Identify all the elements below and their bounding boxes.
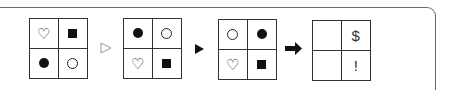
- panel-4-cell-top-right: $: [342, 21, 371, 51]
- circle-outline-icon: [161, 28, 172, 39]
- panel-1-cell-bottom-right: [59, 49, 88, 79]
- hollow-triangle-arrow-icon: [100, 42, 112, 54]
- panel-3-cell-bottom-left: ♡: [219, 50, 248, 80]
- square-filled-icon: [162, 59, 171, 68]
- panel-3-cell-top-left: [219, 20, 248, 50]
- panel-2-cell-top-left: [124, 19, 153, 49]
- circle-filled-icon: [257, 29, 267, 39]
- panel-3-cell-top-right: [248, 20, 277, 50]
- square-filled-icon: [68, 29, 77, 38]
- dollar-symbol: $: [352, 27, 360, 44]
- filled-triangle-arrow-icon: [194, 43, 205, 55]
- panel-1-cell-bottom-left: [30, 49, 59, 79]
- heart-outline-icon: ♡: [226, 57, 239, 72]
- panel-1-cell-top-left: ♡: [30, 19, 59, 49]
- circle-filled-icon: [39, 58, 49, 68]
- panel-3: ♡: [218, 19, 277, 80]
- panel-1: ♡: [29, 18, 88, 79]
- panel-4-cell-top-left: [313, 21, 342, 51]
- circle-outline-icon: [227, 29, 238, 40]
- exclamation-symbol: !: [354, 57, 358, 74]
- panel-2: ♡: [123, 18, 182, 79]
- panel-2-cell-bottom-left: ♡: [124, 49, 153, 79]
- heart-outline-icon: ♡: [131, 56, 144, 71]
- panel-2-cell-top-right: [153, 19, 182, 49]
- panel-4-answer: $ !: [312, 20, 371, 81]
- thick-right-arrow-icon: [285, 42, 303, 55]
- panel-1-cell-top-right: [59, 19, 88, 49]
- panel-4-cell-bottom-right: !: [342, 51, 371, 81]
- panel-4-cell-bottom-left: [313, 51, 342, 81]
- panel-3-cell-bottom-right: [248, 50, 277, 80]
- panel-2-cell-bottom-right: [153, 49, 182, 79]
- circle-outline-icon: [67, 58, 78, 69]
- heart-outline-icon: ♡: [37, 26, 50, 41]
- circle-filled-icon: [133, 28, 143, 38]
- square-filled-icon: [257, 60, 266, 69]
